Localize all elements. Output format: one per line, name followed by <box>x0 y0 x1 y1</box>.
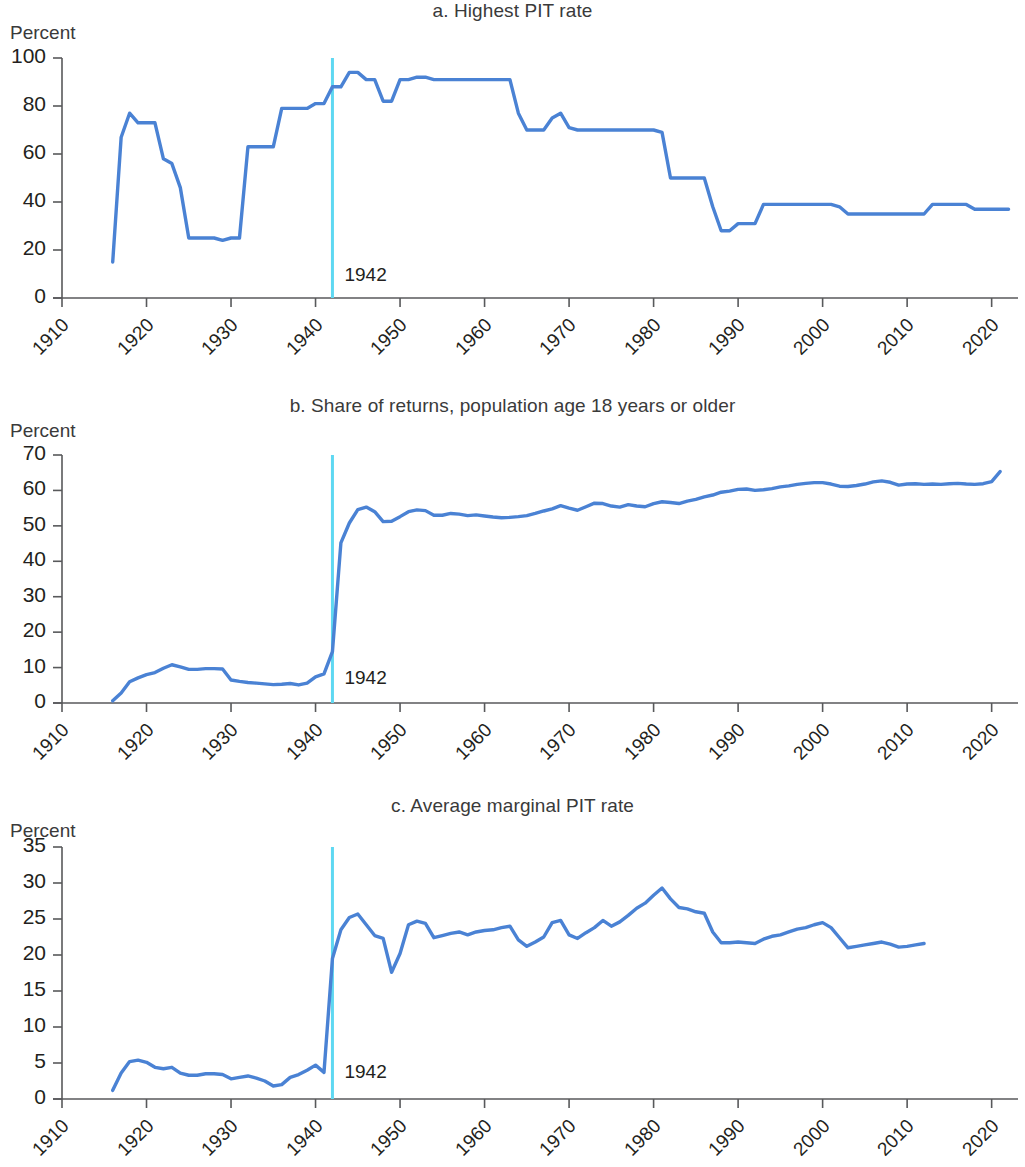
series-line-a <box>113 72 1009 262</box>
series-line-b <box>113 472 1000 701</box>
y-tick-label: 20 <box>0 618 46 642</box>
y-tick-label: 0 <box>0 1085 46 1109</box>
figure-root: a. Highest PIT rate Percent 020406080100… <box>0 0 1025 1167</box>
y-tick-label: 10 <box>0 1013 46 1037</box>
chart-c <box>0 795 1025 1167</box>
y-tick-label: 30 <box>0 869 46 893</box>
y-tick-label: 10 <box>0 654 46 678</box>
y-tick-label: 60 <box>0 140 46 164</box>
y-tick-label: 20 <box>0 941 46 965</box>
y-tick-label: 0 <box>0 689 46 713</box>
y-tick-label: 40 <box>0 547 46 571</box>
y-tick-label: 0 <box>0 284 46 308</box>
series-line-c <box>113 888 924 1090</box>
panel-a: a. Highest PIT rate Percent 020406080100… <box>0 0 1025 390</box>
y-tick-label: 70 <box>0 441 46 465</box>
y-tick-label: 20 <box>0 236 46 260</box>
y-tick-label: 80 <box>0 92 46 116</box>
panel-b: b. Share of returns, population age 18 y… <box>0 395 1025 795</box>
panel-c-plot <box>0 795 1025 1167</box>
y-tick-label: 50 <box>0 512 46 536</box>
y-tick-label: 25 <box>0 905 46 929</box>
y-tick-label: 15 <box>0 977 46 1001</box>
y-tick-label: 35 <box>0 833 46 857</box>
y-tick-label: 30 <box>0 583 46 607</box>
y-tick-label: 60 <box>0 476 46 500</box>
y-tick-label: 5 <box>0 1049 46 1073</box>
marker-label-1942: 1942 <box>344 1061 386 1083</box>
panel-c: c. Average marginal PIT rate Percent 051… <box>0 795 1025 1167</box>
marker-label-1942: 1942 <box>344 264 386 286</box>
marker-label-1942: 1942 <box>344 667 386 689</box>
y-tick-label: 100 <box>0 44 46 68</box>
y-tick-label: 40 <box>0 188 46 212</box>
